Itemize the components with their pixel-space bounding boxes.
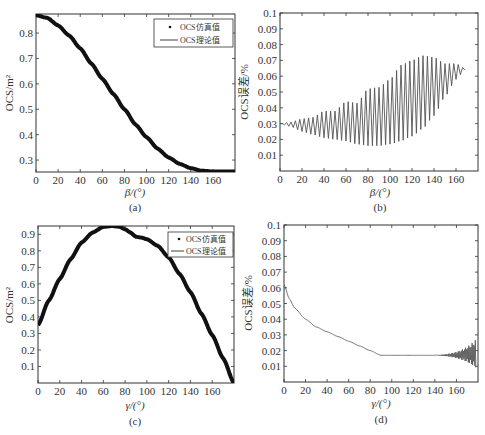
y-tick-label: 0.3 bbox=[19, 154, 33, 166]
marker-icon bbox=[178, 238, 181, 241]
legend-theory-label: OCS理论值 bbox=[186, 246, 226, 256]
y-tick-label: 0.07 bbox=[258, 54, 278, 66]
y-tick-label: 0.03 bbox=[258, 118, 278, 130]
x-tick-label: 40 bbox=[319, 173, 331, 185]
x-tick-label: 100 bbox=[384, 384, 401, 396]
x-tick-label: 0 bbox=[281, 384, 287, 396]
y-axis-label: OCS误差/% bbox=[241, 275, 254, 331]
x-tick-label: 80 bbox=[119, 174, 131, 186]
y-tick-label: 0.06 bbox=[262, 282, 282, 294]
y-tick-label: 0.8 bbox=[19, 27, 33, 39]
y-tick-label: 0.1 bbox=[267, 219, 281, 231]
x-axis-label: γ/(°) bbox=[125, 399, 144, 412]
y-tick-label: 0.1 bbox=[21, 360, 35, 372]
y-tick-label: 0.06 bbox=[258, 70, 278, 82]
x-tick-label: 160 bbox=[448, 384, 465, 396]
x-tick-label: 0 bbox=[35, 385, 41, 397]
x-tick-label: 60 bbox=[97, 174, 109, 186]
panel-caption: (b) bbox=[374, 201, 387, 214]
x-axis-label: β/(°) bbox=[369, 186, 391, 199]
x-axis-label: β/(°) bbox=[124, 186, 146, 199]
y-tick-label: 0.2 bbox=[21, 344, 35, 356]
x-tick-label: 120 bbox=[160, 174, 177, 186]
y-tick-label: 0.04 bbox=[262, 313, 282, 325]
x-tick-label: 140 bbox=[427, 384, 444, 396]
y-tick-label: 0.02 bbox=[258, 133, 277, 145]
y-tick-label: 0.03 bbox=[262, 329, 282, 341]
x-tick-label: 20 bbox=[300, 384, 312, 396]
y-tick-label: 0.1 bbox=[263, 7, 277, 19]
x-tick-label: 20 bbox=[297, 173, 309, 185]
x-tick-label: 100 bbox=[139, 385, 156, 397]
figure: 0204060801001201401600.30.40.50.60.70.8 … bbox=[0, 0, 485, 435]
legend-sim-label: OCS仿真值 bbox=[180, 22, 220, 32]
y-tick-label: 0.3 bbox=[21, 327, 35, 339]
x-tick-label: 20 bbox=[54, 385, 66, 397]
legend: OCS仿真值 OCS理论值 bbox=[168, 232, 233, 257]
legend-theory-label: OCS理论值 bbox=[180, 35, 220, 45]
x-tick-label: 140 bbox=[426, 173, 443, 185]
y-axis-label: OCS/m² bbox=[3, 286, 15, 323]
x-tick-label: 120 bbox=[404, 173, 421, 185]
x-tick-label: 80 bbox=[365, 384, 377, 396]
panel-a-ocs-vs-beta: 0204060801001201401600.30.40.50.60.70.8 … bbox=[3, 14, 235, 214]
y-tick-label: 0.7 bbox=[21, 261, 35, 273]
plot-area: 0204060801001201401600.010.020.030.040.0… bbox=[258, 7, 478, 185]
y-tick-label: 0.6 bbox=[21, 278, 35, 290]
panel-caption: (a) bbox=[129, 201, 142, 214]
y-tick-label: 0.6 bbox=[19, 78, 33, 90]
y-axis-label: OCS误差/% bbox=[237, 64, 250, 120]
y-tick-label: 0.8 bbox=[21, 245, 35, 257]
x-tick-label: 140 bbox=[183, 174, 200, 186]
x-tick-label: 40 bbox=[322, 384, 334, 396]
x-tick-label: 60 bbox=[98, 385, 110, 397]
error-curve bbox=[280, 56, 465, 146]
y-tick-label: 0.7 bbox=[19, 52, 33, 64]
legend-sim-label: OCS仿真值 bbox=[186, 234, 226, 244]
y-tick-label: 0.05 bbox=[262, 298, 282, 310]
error-curve bbox=[284, 285, 476, 368]
x-tick-label: 40 bbox=[76, 385, 88, 397]
y-tick-label: 0.07 bbox=[262, 266, 282, 278]
panel-b-error-vs-beta: 0204060801001201401600.010.020.030.040.0… bbox=[237, 7, 478, 214]
y-tick-label: 0.4 bbox=[21, 311, 35, 323]
x-tick-label: 160 bbox=[205, 174, 222, 186]
y-tick-label: 0.01 bbox=[262, 360, 281, 372]
y-tick-label: 0.5 bbox=[19, 103, 33, 115]
y-tick-label: 0.05 bbox=[258, 86, 278, 98]
x-tick-label: 160 bbox=[448, 173, 465, 185]
x-tick-label: 120 bbox=[405, 384, 422, 396]
x-tick-label: 40 bbox=[75, 174, 87, 186]
axes-frame bbox=[284, 225, 478, 382]
x-tick-label: 140 bbox=[182, 385, 199, 397]
y-tick-label: 0.09 bbox=[258, 23, 278, 35]
y-tick-label: 0.5 bbox=[21, 294, 35, 306]
y-tick-label: 0.02 bbox=[262, 345, 281, 357]
x-tick-label: 100 bbox=[382, 173, 399, 185]
x-tick-label: 80 bbox=[363, 173, 375, 185]
x-axis-label: γ/(°) bbox=[371, 397, 390, 410]
plot-area: 0204060801001201401600.010.020.030.040.0… bbox=[262, 219, 478, 396]
y-tick-label: 0.9 bbox=[21, 228, 35, 240]
y-tick-label: 0.08 bbox=[262, 250, 282, 262]
y-axis-label: OCS/m² bbox=[3, 74, 15, 111]
y-tick-label: 0.08 bbox=[258, 39, 278, 51]
x-tick-label: 60 bbox=[343, 384, 355, 396]
y-tick-label: 0.09 bbox=[262, 235, 282, 247]
panel-caption: (d) bbox=[375, 413, 388, 426]
legend: OCS仿真值 OCS理论值 bbox=[154, 19, 233, 47]
x-tick-label: 120 bbox=[160, 385, 177, 397]
x-tick-label: 80 bbox=[120, 385, 132, 397]
x-tick-label: 0 bbox=[33, 174, 39, 186]
marker-icon bbox=[169, 26, 172, 29]
panel-c-ocs-vs-gamma: 0204060801001201401600.10.20.30.40.50.60… bbox=[3, 226, 234, 428]
panel-caption: (c) bbox=[129, 415, 142, 428]
x-tick-label: 100 bbox=[138, 174, 155, 186]
y-tick-label: 0.04 bbox=[258, 102, 278, 114]
x-tick-label: 60 bbox=[341, 173, 353, 185]
x-tick-label: 20 bbox=[53, 174, 65, 186]
y-tick-label: 0.4 bbox=[19, 129, 33, 141]
x-tick-label: 0 bbox=[277, 173, 283, 185]
y-tick-label: 0.01 bbox=[258, 149, 277, 161]
x-tick-label: 160 bbox=[204, 385, 221, 397]
